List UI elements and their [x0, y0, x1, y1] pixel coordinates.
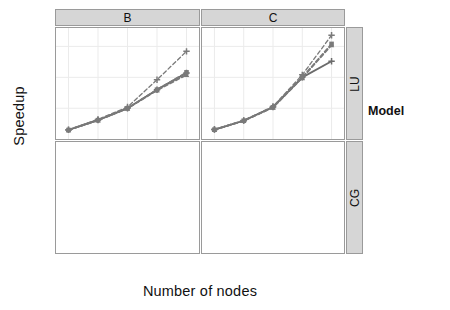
panel-b-lu	[55, 27, 200, 140]
chart-root: B C LU CG Speedup Number of nodes Model	[0, 0, 450, 310]
legend-title: Model	[368, 104, 404, 118]
facet-strip-column-c: C	[201, 9, 345, 26]
facet-strip-column-b: B	[55, 9, 200, 26]
legend: Model	[368, 104, 404, 123]
panel-c-cg	[201, 141, 345, 254]
facet-strip-row-lu: LU	[346, 27, 363, 140]
y-axis-title: Speedup	[11, 71, 27, 161]
x-axis-ticks-c	[201, 254, 345, 276]
x-axis-ticks-b	[55, 254, 200, 276]
x-axis-title: Number of nodes	[55, 283, 345, 299]
facet-strip-row-cg: CG	[346, 141, 363, 254]
facet-strip-row-cg-label: CG	[348, 189, 362, 207]
panel-b-cg	[55, 141, 200, 254]
facet-strip-column-c-label: C	[269, 11, 278, 25]
facet-strip-column-b-label: B	[123, 11, 131, 25]
panel-c-lu	[201, 27, 345, 140]
facet-strip-row-lu-label: LU	[348, 76, 362, 91]
